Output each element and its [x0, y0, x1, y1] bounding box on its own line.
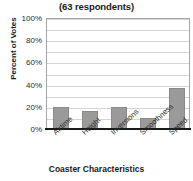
y-tick-label: 80%: [14, 36, 42, 45]
y-tick-label: 0%: [14, 125, 42, 134]
y-tick-label: 100%: [14, 14, 42, 23]
x-axis-title: Coaster Characteristics: [0, 164, 193, 174]
bar-chart: 7th Graders (63 respondents) Percent of …: [0, 0, 193, 181]
y-tick-label: 20%: [14, 102, 42, 111]
x-axis-tick-labels: AirtimeHeightInversionsSmoothnessSpeed: [46, 130, 190, 162]
y-tick-label: 40%: [14, 80, 42, 89]
y-tick-label: 60%: [14, 58, 42, 67]
y-axis-tick-labels: 100%80%60%40%20%0%: [14, 0, 42, 181]
